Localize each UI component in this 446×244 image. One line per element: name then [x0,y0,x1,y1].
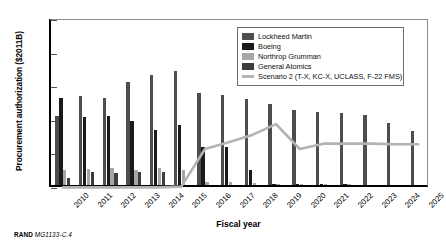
figure-credit: RAND MG1133-C.4 [14,231,72,238]
x-tick-label: 2016 [214,191,233,210]
legend-item: Boeing [242,41,399,51]
x-tick-label: 2014 [167,191,186,210]
legend-swatch-icon [242,43,254,50]
legend-swatch-icon [242,53,254,60]
legend-item: Lockheed Martin [242,31,399,41]
x-tick-label: 2023 [380,191,399,210]
x-tick-label: 2011 [95,191,113,209]
legend-label: Scenario 2 (T-X, KC-X, UCLASS, F-22 FMS) [258,72,402,81]
x-tick-label: 2021 [332,191,351,210]
x-tick-label: 2017 [238,191,257,210]
legend-item: Scenario 2 (T-X, KC-X, UCLASS, F-22 FMS) [242,72,399,82]
x-tick-label: 2013 [143,191,162,210]
credit-org: RAND [14,231,33,238]
legend-item: General Atomics [242,62,399,72]
legend-label: Northrop Grumman [258,52,321,61]
legend-label: General Atomics [258,62,311,71]
x-tick-label: 2022 [356,191,375,210]
x-tick-label: 2024 [404,191,423,210]
legend-label: Boeing [258,42,281,51]
x-tick-label: 2025 [427,191,446,210]
legend-item: Northrop Grumman [242,51,399,61]
x-tick-label: 2010 [72,191,91,210]
x-tick-label: 2019 [285,191,304,210]
x-tick-label: 2015 [190,191,209,210]
legend-swatch-icon [242,63,254,70]
scenario-2-line [63,124,418,187]
chart-legend: Lockheed MartinBoeingNorthrop GrummanGen… [237,27,404,86]
y-axis-title: Procurement authorization ($2011B) [14,11,24,191]
credit-figure-number: MG1133-C.4 [35,231,72,238]
x-tick-label: 2018 [261,191,280,210]
x-axis-title: Fiscal year [49,219,428,229]
legend-line-icon [242,75,254,78]
x-tick-label: 2012 [119,191,138,210]
legend-label: Lockheed Martin [258,32,312,41]
x-tick-label: 2020 [309,191,328,210]
y-tick [51,188,57,189]
legend-swatch-icon [242,33,254,40]
